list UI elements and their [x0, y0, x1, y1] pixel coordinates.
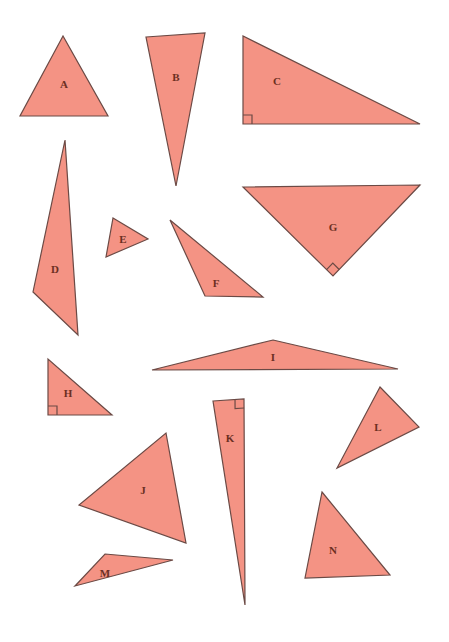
triangle-label-j: J — [140, 484, 146, 496]
triangle-label-d: D — [51, 263, 59, 275]
triangle-label-l: L — [374, 421, 381, 433]
triangle-label-f: F — [213, 277, 220, 289]
triangle-label-i: I — [271, 351, 275, 363]
triangle-label-m: M — [100, 567, 111, 579]
triangle-label-h: H — [64, 387, 73, 399]
triangle-label-g: G — [329, 221, 338, 233]
triangle-label-c: C — [273, 75, 281, 87]
triangle-label-e: E — [119, 233, 126, 245]
triangle-label-a: A — [60, 78, 68, 90]
triangle-label-k: K — [226, 432, 235, 444]
triangle-label-b: B — [172, 71, 180, 83]
triangle-label-n: N — [329, 544, 337, 556]
triangles-figure: ABCDEFGHIJKLMN — [0, 0, 449, 642]
worksheet-page: ABCDEFGHIJKLMN — [0, 0, 449, 642]
